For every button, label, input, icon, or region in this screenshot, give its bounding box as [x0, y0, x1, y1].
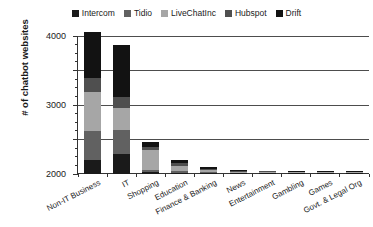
bar-group[interactable] [223, 36, 252, 174]
bar-segment-intercom[interactable] [317, 173, 334, 174]
bar-stack[interactable] [230, 170, 247, 174]
y-axis-tick-label: 3000 [46, 100, 66, 110]
bar-group[interactable] [282, 36, 311, 174]
y-axis-tick-label: 4000 [46, 31, 66, 41]
x-axis-tick [369, 174, 370, 177]
bar-group[interactable] [311, 36, 340, 174]
x-axis-label: News [225, 178, 247, 195]
bar-stack[interactable] [171, 160, 188, 174]
bar-group[interactable] [78, 36, 107, 174]
x-axis-label: Education [153, 178, 189, 202]
bar-segment-drift[interactable] [84, 32, 101, 78]
x-axis-tick [310, 174, 311, 177]
bar-segment-intercom[interactable] [171, 173, 188, 174]
x-axis-label: Games [307, 178, 334, 198]
bar-stack[interactable] [317, 171, 334, 174]
bar-stack[interactable] [84, 32, 101, 174]
legend-item-label: LiveChatInc [171, 9, 216, 18]
x-axis-label: IT [120, 178, 130, 189]
legend-swatch-icon [72, 10, 79, 17]
bar-segment-intercom[interactable] [84, 160, 101, 174]
legend-item-label: Hubspot [235, 9, 267, 18]
legend-swatch-icon [124, 10, 131, 17]
bar-segment-intercom[interactable] [288, 173, 305, 174]
bar-segment-livechatinc[interactable] [142, 150, 159, 170]
legend-swatch-icon [225, 10, 232, 17]
legend-item-drift[interactable]: Drift [276, 9, 302, 18]
x-axis-tick [194, 174, 195, 177]
x-axis-label: Shopping [126, 178, 160, 201]
x-axis-label: Entertainment [228, 178, 276, 209]
bar-group[interactable] [136, 36, 165, 174]
legend-item-label: Tidio [134, 9, 152, 18]
bar-group[interactable] [165, 36, 194, 174]
bar-stack[interactable] [142, 142, 159, 174]
x-axis-tick [165, 174, 166, 177]
legend-item-hubspot[interactable]: Hubspot [225, 9, 267, 18]
legend-item-label: Drift [286, 9, 302, 18]
bar-stack[interactable] [288, 171, 305, 174]
bar-segment-drift[interactable] [113, 45, 130, 98]
y-axis-tick-label: 2000 [46, 169, 66, 179]
bar-segment-tidio[interactable] [113, 130, 130, 154]
x-axis-label: Govt. & Legal Org [302, 178, 363, 215]
bar-segment-livechatinc[interactable] [84, 92, 101, 131]
bar-segment-tidio[interactable] [84, 131, 101, 160]
bar-segment-intercom[interactable] [113, 154, 130, 174]
legend-item-label: Intercom [82, 9, 115, 18]
bar-segment-intercom[interactable] [230, 173, 247, 174]
bar-group[interactable] [340, 36, 369, 174]
legend-item-livechatinc[interactable]: LiveChatInc [161, 9, 216, 18]
bar-stack[interactable] [113, 45, 130, 174]
legend-item-tidio[interactable]: Tidio [124, 9, 152, 18]
bar-segment-livechatinc[interactable] [113, 108, 130, 129]
x-axis-label: Gambling [271, 178, 306, 202]
bar-segment-intercom[interactable] [259, 173, 276, 174]
x-axis-tick [136, 174, 137, 177]
legend-swatch-icon [276, 10, 283, 17]
x-axis-tick [339, 174, 340, 177]
bar-segment-intercom[interactable] [142, 172, 159, 174]
bar-stack[interactable] [200, 167, 217, 174]
x-axis-tick [78, 174, 79, 177]
bar-segment-hubspot[interactable] [113, 97, 130, 108]
legend-item-intercom[interactable]: Intercom [72, 9, 115, 18]
x-axis-label: Non-IT Business [45, 178, 102, 213]
stacked-bar-chart: IntercomTidioLiveChatIncHubspotDrift # o… [0, 0, 373, 227]
bar-group[interactable] [194, 36, 223, 174]
bar-segment-hubspot[interactable] [84, 78, 101, 92]
bar-stack[interactable] [259, 171, 276, 174]
plot-area: 01000200030004000 [78, 36, 369, 174]
x-axis-tick [107, 174, 108, 177]
bar-group[interactable] [107, 36, 136, 174]
bar-series-group [78, 36, 369, 174]
x-axis-tick [223, 174, 224, 177]
y-axis-title: # of chatbot websites [19, 3, 30, 133]
plot-area-wrapper: 01000200030004000 [78, 36, 369, 174]
x-axis-label: Finance & Banking [154, 178, 218, 217]
x-axis-tick [281, 174, 282, 177]
chart-legend: IntercomTidioLiveChatIncHubspotDrift [0, 9, 373, 18]
x-axis-tick [252, 174, 253, 177]
bar-group[interactable] [253, 36, 282, 174]
bar-stack[interactable] [346, 171, 363, 174]
bar-segment-intercom[interactable] [200, 173, 217, 174]
bar-segment-intercom[interactable] [346, 173, 363, 174]
legend-swatch-icon [161, 10, 168, 17]
